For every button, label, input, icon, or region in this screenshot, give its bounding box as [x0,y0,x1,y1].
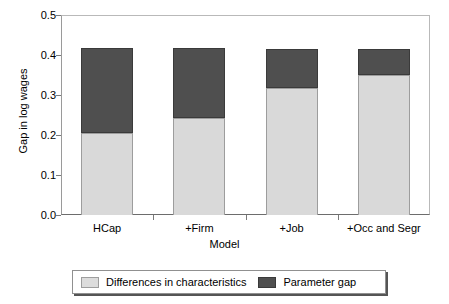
y-tick-label: 0.2 [16,130,56,141]
x-tick-label: HCap [93,222,121,234]
y-tick-label: 0.4 [16,50,56,61]
bar-segment-characteristics [173,118,225,215]
y-axis-title: Gap in log wages [17,41,29,181]
legend-entry: Parameter gap [258,276,356,288]
legend-swatch-icon [258,277,276,288]
legend-entry: Differences in characteristics [81,276,246,288]
bar-segment-parameter-gap [358,49,410,75]
bar-stack [266,15,318,215]
y-tick-label: 0.3 [16,90,56,101]
y-tick-label: 0.0 [16,210,56,221]
x-axis-title: Model [0,238,449,250]
bar-segment-parameter-gap [81,48,133,133]
x-tick-label: +Job [280,222,304,234]
legend-swatch-icon [81,277,99,288]
chart-legend: Differences in characteristicsParameter … [72,270,386,294]
x-tick-mark [338,215,339,220]
bar-stack [81,15,133,215]
chart-figure: Gap in log wages 0.50.40.30.20.10.0 HCap… [0,0,449,304]
x-tick-mark [246,215,247,220]
y-tick-label: 0.1 [16,170,56,181]
y-tick-label: 0.5 [16,10,56,21]
bar-segment-parameter-gap [173,48,225,118]
legend-label: Differences in characteristics [106,276,246,288]
bar-segment-characteristics [81,133,133,215]
bar-stack [358,15,410,215]
x-tick-label: +Firm [185,222,213,234]
x-tick-mark [153,215,154,220]
bar-segment-characteristics [266,88,318,215]
bars-layer [61,15,430,215]
legend-label: Parameter gap [283,276,356,288]
bar-segment-characteristics [358,75,410,215]
bar-segment-parameter-gap [266,49,318,88]
x-tick-label: +Occ and Segr [347,222,421,234]
bar-stack [173,15,225,215]
y-tick-mark [56,215,61,216]
